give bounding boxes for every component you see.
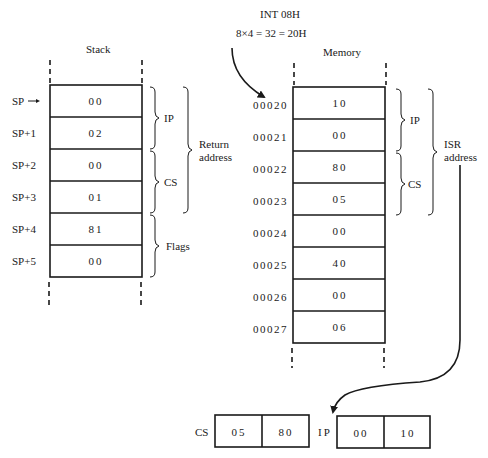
stack-cell-value: 81 <box>89 223 104 235</box>
memory-address: 00020 <box>253 99 288 111</box>
stack-offset-label: SP+1 <box>12 127 36 139</box>
memory-address: 00023 <box>253 195 288 207</box>
memory-address: 00025 <box>253 259 288 271</box>
vector-arrow <box>232 48 264 97</box>
cs-register-label: CS <box>195 426 208 438</box>
memory-cell-value: 05 <box>333 193 348 205</box>
stack-pointer-label: SP <box>12 95 24 107</box>
cs-register-high-byte: 05 <box>232 426 247 438</box>
stack-offset-label: SP+2 <box>12 159 36 171</box>
stack-cs-brace-label: CS <box>164 176 177 188</box>
stack-cell-value: 01 <box>89 191 104 203</box>
memory-cell-value: 00 <box>333 289 348 301</box>
memory-cell-value: 80 <box>333 161 348 173</box>
cs-register: CS 05 80 <box>195 415 309 447</box>
stack-cs-brace <box>150 151 159 213</box>
stack-offset-label: SP+4 <box>12 223 36 235</box>
ip-register-high-byte: 00 <box>354 427 369 439</box>
memory-cell-value: 40 <box>333 257 348 269</box>
stack-diagram: Stack SP SP+1 SP+2 SP+3 SP+4 SP+5 00 02 … <box>12 43 232 305</box>
ip-register-low-byte: 10 <box>401 427 416 439</box>
memory-cell-value: 00 <box>333 129 348 141</box>
memory-address: 00022 <box>253 163 288 175</box>
return-address-label-line1: Return <box>199 138 229 150</box>
memory-address: 00026 <box>253 291 288 303</box>
isr-address-label-line1: ISR <box>444 138 462 150</box>
memory-cell-value: 10 <box>333 97 348 109</box>
memory-cell-value: 06 <box>333 321 348 333</box>
memory-address: 00021 <box>253 131 288 143</box>
memory-address: 00027 <box>253 323 288 335</box>
stack-cell-value: 02 <box>89 127 104 139</box>
memory-cs-brace <box>396 153 405 215</box>
stack-offset-label: SP+5 <box>12 255 36 267</box>
memory-ip-brace-label: IP <box>410 114 420 126</box>
cs-register-low-byte: 80 <box>279 426 294 438</box>
stack-pointer-arrow-icon <box>36 99 40 103</box>
stack-flags-brace-label: Flags <box>166 240 190 252</box>
ip-register-label: IP <box>318 426 332 438</box>
stack-cell-value: 00 <box>89 159 104 171</box>
isr-address-brace <box>428 89 437 215</box>
memory-cell-value: 00 <box>333 225 348 237</box>
memory-diagram: Memory 00020 00021 00022 00023 00024 000… <box>253 46 477 368</box>
return-address-label-line2: address <box>199 151 232 163</box>
ip-register: IP 00 10 <box>318 416 430 448</box>
interrupt-label: INT 08H <box>260 8 300 20</box>
interrupt-vector-diagram: INT 08H 8×4 = 32 = 20H Stack SP SP+1 SP+… <box>0 0 488 458</box>
memory-ip-brace <box>396 89 405 151</box>
stack-cell-value: 00 <box>89 95 104 107</box>
stack-ip-brace-label: IP <box>164 112 174 124</box>
isr-address-label-line2: address <box>444 151 477 163</box>
memory-address: 00024 <box>253 227 288 239</box>
memory-cs-brace-label: CS <box>408 178 421 190</box>
stack-flags-brace <box>150 215 159 277</box>
stack-cell-value: 00 <box>89 255 104 267</box>
stack-title: Stack <box>86 43 111 55</box>
stack-ip-brace <box>150 87 159 149</box>
isr-load-arrow <box>333 165 460 412</box>
memory-title: Memory <box>323 46 361 58</box>
return-address-brace <box>183 87 192 213</box>
stack-offset-label: SP+3 <box>12 191 36 203</box>
vector-calculation: 8×4 = 32 = 20H <box>236 27 307 39</box>
